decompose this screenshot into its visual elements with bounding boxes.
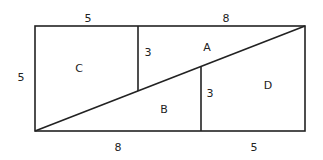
label-top-right-length: 8 [223,13,230,24]
region-label-c: C [75,63,83,74]
label-left-side-length: 5 [18,72,25,83]
region-label-a: A [203,42,211,53]
region-label-d: D [264,80,272,91]
label-inner-right-segment: 3 [207,88,214,99]
label-inner-left-segment: 3 [145,47,152,58]
label-top-left-length: 5 [85,13,92,24]
label-bottom-left-length: 8 [115,142,122,153]
diagram-canvas [0,0,323,160]
region-label-b: B [160,104,168,115]
label-bottom-right-length: 5 [251,142,258,153]
